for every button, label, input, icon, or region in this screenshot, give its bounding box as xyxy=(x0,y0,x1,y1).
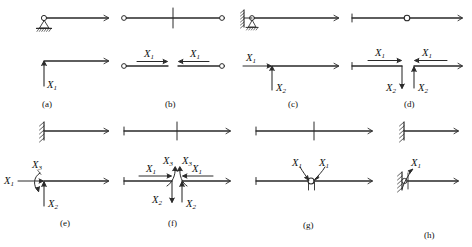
panel-d-top xyxy=(352,14,463,22)
label-panel-f-X1-right: X1 xyxy=(191,163,202,176)
panel-c-bottom xyxy=(243,63,339,90)
label-panel-d-X1-left: X1 xyxy=(374,47,385,60)
caption-panel-f: (f) xyxy=(168,218,177,228)
panel-h-top xyxy=(400,122,459,142)
label-panel-c-X2: X2 xyxy=(275,82,286,95)
label-panel-e-X3: X3 xyxy=(31,159,42,172)
label-panel-d-X2-left: X2 xyxy=(385,82,396,95)
label-panel-f-X3-left: X3 xyxy=(162,155,173,168)
panel-f-top xyxy=(124,122,231,140)
panel-f-bottom xyxy=(124,167,231,203)
panel-d-bottom xyxy=(352,58,463,88)
panel-g-bottom xyxy=(256,167,373,190)
label-panel-e-X1: X1 xyxy=(3,175,14,188)
label-panel-f-X2-right: X2 xyxy=(185,198,196,211)
label-panel-b-X1-left: X1 xyxy=(143,48,154,61)
panel-h-bottom xyxy=(398,169,459,192)
label-panel-d-X1-right: X1 xyxy=(421,47,432,60)
label-panel-h-X1: X1 xyxy=(410,157,421,170)
panel-e-top xyxy=(40,122,110,142)
label-panel-g-X1-right: X1 xyxy=(318,157,329,170)
panel-b-top xyxy=(122,8,225,28)
caption-panel-e: (e) xyxy=(60,218,70,228)
panel-b-bottom xyxy=(122,59,225,68)
label-panel-f-X1-left: X1 xyxy=(145,163,156,176)
label-panel-f-X3-right: X3 xyxy=(181,155,192,168)
caption-panel-g: (g) xyxy=(303,220,314,230)
structural-diagram-svg: X1 X1 X1 X1 X2 X1 X2 X1 X2 X3 X1 X2 X1 X… xyxy=(0,0,472,247)
label-panel-e-X2: X2 xyxy=(47,198,58,211)
panel-c-top xyxy=(241,10,340,30)
label-panel-g-X1-left: X1 xyxy=(291,157,302,170)
caption-panel-d: (d) xyxy=(404,99,415,109)
label-panel-d-X2-right: X2 xyxy=(417,82,428,95)
panel-a-top xyxy=(37,15,110,31)
caption-panel-b: (b) xyxy=(165,99,176,109)
label-panel-b-X1-right: X1 xyxy=(189,48,200,61)
diagram-sheet: X1 X1 X1 X1 X2 X1 X2 X1 X2 X3 X1 X2 X1 X… xyxy=(0,0,472,247)
label-panel-a-X1: X1 xyxy=(46,79,57,92)
label-panel-c-X1: X1 xyxy=(245,52,256,65)
panel-g-top xyxy=(256,122,373,140)
caption-panel-a: (a) xyxy=(42,99,52,109)
panel-e-bottom xyxy=(18,170,109,206)
caption-panel-h: (h) xyxy=(424,230,435,240)
label-panel-f-X2-left: X2 xyxy=(151,194,162,207)
caption-panel-c: (c) xyxy=(288,99,298,109)
